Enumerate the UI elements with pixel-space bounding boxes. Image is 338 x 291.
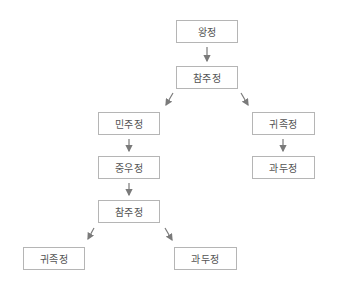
node-label: 과두정: [191, 251, 220, 266]
node-label: 귀족정: [40, 251, 69, 266]
arrow-chamjujeong-to-minjujeong: [166, 93, 173, 105]
node-label: 참주정: [193, 70, 222, 85]
node-gwadujeong-bottom: 과두정: [174, 247, 237, 270]
node-chamjujeong-top: 참주정: [176, 66, 238, 89]
node-gwijokjeong-bottom: 귀족정: [23, 247, 85, 270]
node-label: 중우정: [115, 160, 144, 175]
node-label: 민주정: [115, 116, 144, 131]
arrow-chamjujeong-to-gwijokjeong: [241, 93, 248, 105]
node-gwijokjeong-right: 귀족정: [252, 112, 315, 135]
node-label: 왕정: [198, 24, 217, 39]
node-gwadujeong-right: 과두정: [252, 156, 315, 179]
node-wangjeong: 왕정: [176, 20, 238, 43]
node-minjujeong: 민주정: [98, 112, 160, 135]
node-chamjujeong-bottom: 참주정: [98, 200, 160, 223]
arrow-chamjujeong-to-gwijokjeong-bottom: [88, 228, 94, 239]
node-label: 참주정: [115, 204, 144, 219]
arrow-chamjujeong-to-gwadujeong-bottom: [165, 228, 172, 240]
node-jungujeong: 중우정: [98, 156, 160, 179]
node-label: 과두정: [269, 160, 298, 175]
node-label: 귀족정: [269, 116, 298, 131]
